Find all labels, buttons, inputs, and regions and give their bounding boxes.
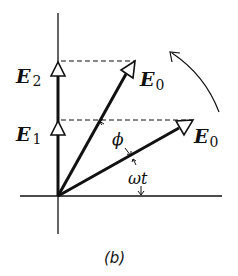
phasor-diagram: E2 E1 E0 E0 ϕ ωt (b) <box>0 0 238 276</box>
label-e1: E1 <box>15 123 41 147</box>
label-phi: ϕ <box>112 129 124 149</box>
rotation-arc <box>172 53 219 112</box>
e2-arrowhead <box>51 62 65 76</box>
label-e2: E2 <box>15 65 41 89</box>
label-omega-t: ωt <box>128 169 148 188</box>
label-e0-upper: E0 <box>139 68 164 93</box>
figure-caption: (b) <box>104 249 125 267</box>
e1-arrowhead <box>51 121 65 135</box>
e0-upper-arrowhead <box>121 61 135 78</box>
label-e0-lower: E0 <box>193 125 218 150</box>
